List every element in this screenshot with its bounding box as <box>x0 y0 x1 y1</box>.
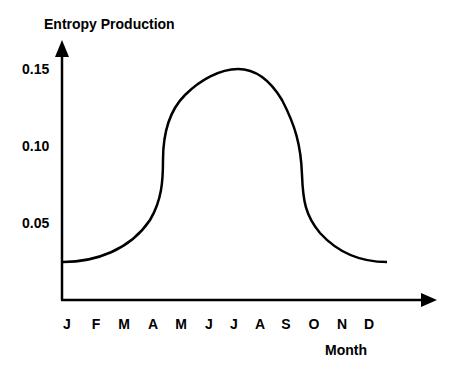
y-tick-0-10: 0.10 <box>22 138 49 154</box>
x-tick-mar: M <box>114 316 134 332</box>
x-axis-arrow-icon <box>421 293 437 307</box>
x-tick-jul: J <box>224 316 244 332</box>
x-tick-oct: O <box>304 316 324 332</box>
x-tick-sep: S <box>276 316 296 332</box>
x-tick-aug: A <box>250 316 270 332</box>
x-tick-dec: D <box>359 316 379 332</box>
x-tick-feb: F <box>86 316 106 332</box>
x-axis-label: Month <box>325 342 367 358</box>
x-tick-jan: J <box>57 316 77 332</box>
x-tick-nov: N <box>332 316 352 332</box>
y-axis-label: Entropy Production <box>44 16 175 32</box>
y-tick-0-05: 0.05 <box>22 215 49 231</box>
x-tick-apr: A <box>143 316 163 332</box>
x-tick-jun: J <box>199 316 219 332</box>
entropy-curve <box>63 69 387 262</box>
y-tick-0-15: 0.15 <box>22 61 49 77</box>
x-tick-may: M <box>171 316 191 332</box>
y-axis-arrow-icon <box>55 40 69 57</box>
